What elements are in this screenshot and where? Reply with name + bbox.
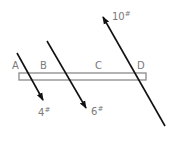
force-arrow-10: [103, 17, 165, 126]
force-unit: #: [125, 10, 131, 18]
point-label-d: D: [137, 60, 145, 71]
point-label-c: C: [95, 60, 102, 71]
point-label-b: B: [40, 60, 47, 71]
force-unit: #: [97, 105, 103, 113]
point-label-a: A: [12, 60, 19, 71]
beam: [19, 73, 146, 80]
force-label-10: 10#: [112, 10, 131, 22]
beam-force-diagram: A B C D 4# 6# 10#: [0, 0, 170, 142]
force-label-4: 4#: [38, 106, 50, 118]
force-unit: #: [44, 106, 50, 114]
force-value: 10: [112, 11, 125, 22]
force-label-6: 6#: [91, 105, 103, 117]
